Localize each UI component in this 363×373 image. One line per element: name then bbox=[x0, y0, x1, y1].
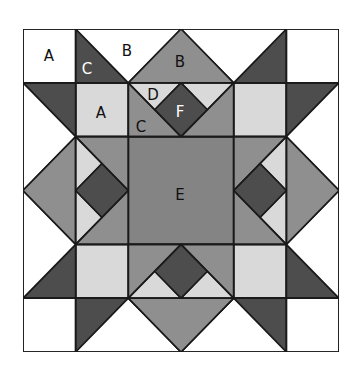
label-b-white: B bbox=[122, 42, 132, 60]
label-c-dark: C bbox=[82, 60, 92, 78]
piece-a-sw bbox=[76, 244, 129, 298]
label-b-medium: B bbox=[175, 53, 185, 71]
piece-a-se bbox=[234, 244, 287, 298]
label-a-inner: A bbox=[96, 104, 106, 122]
label-f-diamond: F bbox=[176, 103, 185, 121]
piece-a-ne bbox=[234, 83, 287, 137]
label-c-medium: C bbox=[136, 118, 146, 136]
quilt-block: A C B B D A C F E bbox=[23, 29, 339, 352]
label-d-light: D bbox=[147, 86, 159, 104]
label-e-center: E bbox=[175, 186, 184, 204]
label-a-corner: A bbox=[44, 47, 54, 65]
